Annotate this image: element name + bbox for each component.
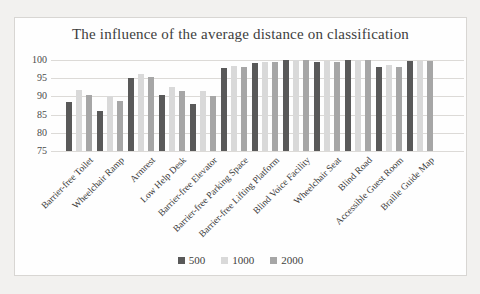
chart-frame: The influence of the average distance on… <box>14 17 467 276</box>
legend-item-500: 500 <box>178 254 206 266</box>
bar-1000 <box>262 62 268 151</box>
bar-500 <box>190 104 196 151</box>
bar-1000 <box>169 87 175 151</box>
bar-500 <box>283 60 289 151</box>
category-label: Barrier-free Toilet <box>0 155 95 268</box>
bar-500 <box>97 111 103 151</box>
legend: 50010002000 <box>15 254 466 266</box>
y-tick-label: 85 <box>21 110 47 120</box>
bar-1000 <box>386 65 392 151</box>
bar-500 <box>345 60 351 151</box>
bar-500 <box>314 62 320 151</box>
gridline <box>51 60 464 61</box>
y-tick-label: 80 <box>21 128 47 138</box>
y-tick-label: 90 <box>21 91 47 101</box>
bar-1000 <box>293 60 299 151</box>
bar-2000 <box>241 67 247 151</box>
bar-1000 <box>200 91 206 151</box>
bar-2000 <box>86 95 92 151</box>
bar-500 <box>66 102 72 151</box>
bar-1000 <box>138 74 144 151</box>
gridline <box>51 133 464 134</box>
bar-500 <box>221 68 227 151</box>
bar-2000 <box>365 60 371 151</box>
legend-swatch-icon <box>178 257 185 264</box>
bar-2000 <box>210 96 216 151</box>
plot-area: 7580859095100Barrier-free ToiletWheelcha… <box>15 18 468 277</box>
legend-label: 1000 <box>232 254 254 266</box>
bar-500 <box>159 95 165 151</box>
bar-1000 <box>417 61 423 151</box>
legend-label: 2000 <box>281 254 303 266</box>
y-tick-label: 95 <box>21 73 47 83</box>
bar-500 <box>407 61 413 151</box>
bar-1000 <box>231 66 237 151</box>
gridline <box>51 151 464 152</box>
bar-1000 <box>107 96 113 151</box>
gridline <box>51 96 464 97</box>
y-tick-label: 75 <box>21 146 47 156</box>
legend-label: 500 <box>189 254 206 266</box>
bar-2000 <box>179 91 185 151</box>
bar-500 <box>376 67 382 151</box>
gridline <box>51 78 464 79</box>
bar-2000 <box>427 61 433 151</box>
legend-swatch-icon <box>221 257 228 264</box>
bar-2000 <box>396 67 402 151</box>
bar-500 <box>128 78 134 151</box>
bar-2000 <box>303 60 309 151</box>
legend-swatch-icon <box>270 257 277 264</box>
bar-500 <box>252 63 258 151</box>
gridline <box>51 115 464 116</box>
bar-2000 <box>117 101 123 151</box>
bar-1000 <box>324 61 330 151</box>
legend-item-1000: 1000 <box>221 254 254 266</box>
bar-2000 <box>334 62 340 151</box>
bar-2000 <box>148 77 154 151</box>
y-tick-label: 100 <box>21 55 47 65</box>
legend-item-2000: 2000 <box>270 254 303 266</box>
bar-1000 <box>355 60 361 151</box>
bar-1000 <box>76 90 82 151</box>
bar-2000 <box>272 62 278 151</box>
